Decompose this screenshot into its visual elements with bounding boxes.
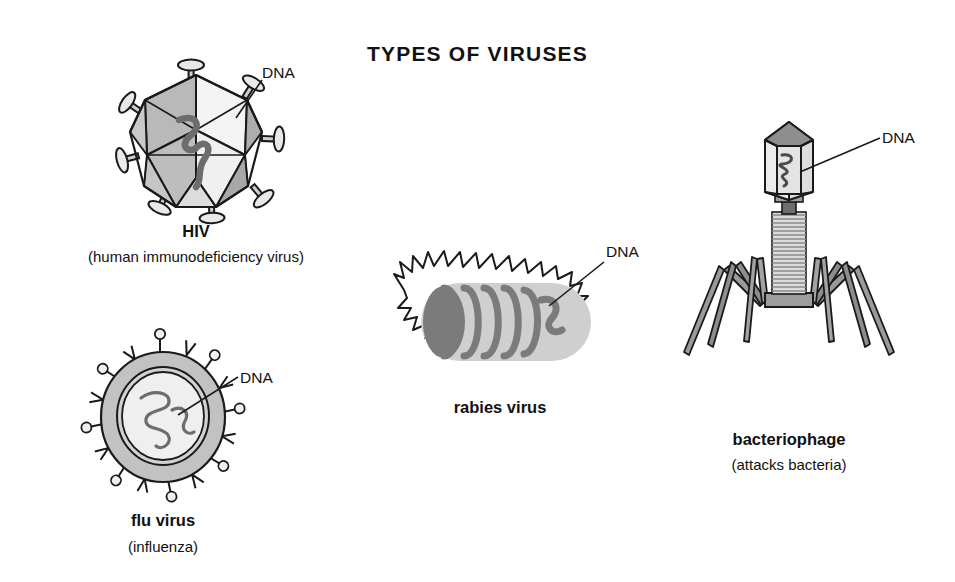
bacteriophage-illustration xyxy=(0,0,955,582)
phage-tail-sheath xyxy=(772,212,806,294)
phage-title: bacteriophage xyxy=(689,430,889,449)
phage-baseplate xyxy=(765,293,813,307)
virus-diagram-canvas: TYPES OF VIRUSES xyxy=(0,0,955,582)
phage-subtitle: (attacks bacteria) xyxy=(689,456,889,473)
phage-dna-label: DNA xyxy=(882,129,915,147)
